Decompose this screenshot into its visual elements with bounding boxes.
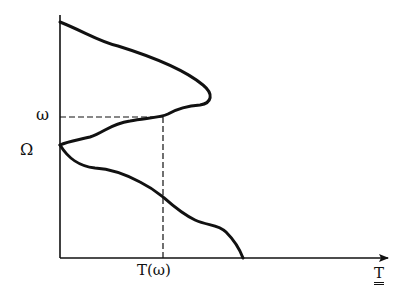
diagram-canvas: [0, 0, 408, 308]
curve-upper: [60, 22, 210, 145]
omega-label: ω: [36, 107, 49, 123]
Omega-label: Ω: [20, 142, 33, 158]
T-of-omega-label: T(ω): [137, 263, 171, 278]
curve-lower: [60, 145, 243, 258]
x-axis-label: T: [374, 266, 384, 285]
